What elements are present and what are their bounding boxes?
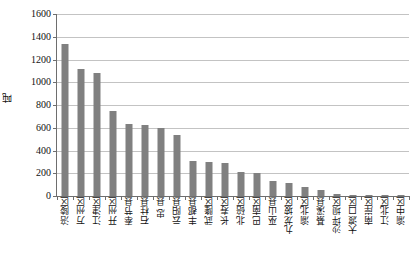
bar-slot <box>137 14 153 196</box>
bar <box>110 111 117 196</box>
x-axis-tick-label-text: 云阳县 <box>172 197 181 225</box>
bar-slot <box>377 14 393 196</box>
bar <box>126 124 133 196</box>
bar <box>334 194 341 196</box>
x-axis-tick-label-text: 忠 县 <box>156 197 165 218</box>
bar-slot <box>313 14 329 196</box>
x-axis-tick-label-text: 北碚区 <box>236 197 245 225</box>
bar-slot <box>361 14 377 196</box>
bar-slot <box>57 14 73 196</box>
bar-slot <box>233 14 249 196</box>
bar <box>270 181 277 196</box>
bar-slot <box>281 14 297 196</box>
x-axis-tick-label-text: 渝北区 <box>300 197 309 225</box>
y-axis-title: 吨 <box>1 0 15 196</box>
x-axis-tick-label: 长寿区 <box>216 197 232 253</box>
y-axis-title-text: 吨 <box>3 93 13 103</box>
x-axis-tick-label: 江北区 <box>376 197 392 253</box>
bar-slot <box>265 14 281 196</box>
x-axis-tick-label: 巫山县 <box>264 197 280 253</box>
x-axis-tick-label: 渝北区 <box>296 197 312 253</box>
bars-layer <box>57 14 409 196</box>
x-axis-tick-label: 沙坪坝区 <box>328 197 344 253</box>
x-axis-tick-label-text: 大渡口区 <box>348 197 357 234</box>
x-axis-tick-label-text: 沙坪坝区 <box>332 197 341 234</box>
bar-slot <box>329 14 345 196</box>
y-axis-tick-label: 1400 <box>31 32 51 42</box>
x-axis-tick-label-text: 巴南区 <box>252 197 261 225</box>
x-axis-tick-label: 江津区 <box>88 197 104 253</box>
bar-slot <box>345 14 361 196</box>
x-axis-tick-label-text: 石柱县 <box>140 197 149 225</box>
bar-slot <box>249 14 265 196</box>
x-axis-tick-label: 渝中区 <box>392 197 408 253</box>
bar-slot <box>73 14 89 196</box>
x-axis-tick-label: 巴南区 <box>248 197 264 253</box>
x-axis-tick-label-text: 江北区 <box>380 197 389 225</box>
y-axis-tick-labels: 16001400120010008006004002000 <box>14 14 54 196</box>
bar <box>382 195 389 196</box>
x-axis-tick-label-text: 涪陵区 <box>60 197 69 225</box>
bar-slot <box>217 14 233 196</box>
x-axis-tick-label-text: 奉节县 <box>124 197 133 225</box>
y-axis-tick-label: 800 <box>36 100 51 110</box>
y-axis-tick-label: 1600 <box>31 9 51 19</box>
x-axis-tick-label-text: 开州区 <box>108 197 117 225</box>
x-axis-tickmark <box>409 196 410 200</box>
bar <box>302 187 309 196</box>
bar-slot <box>105 14 121 196</box>
y-axis-tick-label: 400 <box>36 146 51 156</box>
bar <box>238 172 245 196</box>
x-axis-tick-label-text: 江津区 <box>92 197 101 225</box>
bar <box>286 183 293 196</box>
y-axis-tick-label: 1200 <box>31 55 51 65</box>
x-axis-tick-label-text: 万州区 <box>76 197 85 225</box>
x-axis-tick-label: 北碚区 <box>232 197 248 253</box>
x-axis-tick-label-text: 巫山县 <box>268 197 277 225</box>
x-axis-tick-label: 忠 县 <box>152 197 168 253</box>
x-axis-tick-label-text: 渝中区 <box>396 197 405 225</box>
bar-slot <box>297 14 313 196</box>
x-axis-tick-label: 大渡口区 <box>344 197 360 253</box>
bar-chart: 吨 16001400120010008006004002000 涪陵区万州区江津… <box>0 0 414 253</box>
bar-slot <box>169 14 185 196</box>
bar-slot <box>153 14 169 196</box>
x-axis-tick-label: 南岸区 <box>360 197 376 253</box>
bar <box>94 73 101 196</box>
x-axis-tick-label-text: 武隆区 <box>204 197 213 225</box>
x-axis-tick-label: 奉节县 <box>120 197 136 253</box>
x-axis-tick-label: 云阳县 <box>168 197 184 253</box>
y-axis-tick-label: 0 <box>46 191 51 201</box>
bar <box>62 44 69 196</box>
x-axis-tick-label-text: 九龙坡区 <box>284 197 293 234</box>
bar <box>222 163 229 196</box>
bar <box>206 162 213 196</box>
bar-slot <box>185 14 201 196</box>
bar-slot <box>201 14 217 196</box>
bar-slot <box>89 14 105 196</box>
x-axis-tick-label: 綦溪县 <box>312 197 328 253</box>
x-axis-tick-label: 武隆区 <box>200 197 216 253</box>
x-axis-tick-label: 涪陵区 <box>56 197 72 253</box>
y-axis-tick-label: 200 <box>36 168 51 178</box>
x-axis-tick-label-text: 丰都县 <box>188 197 197 225</box>
x-axis-tick-label: 石柱县 <box>136 197 152 253</box>
bar <box>318 190 325 196</box>
x-axis-tick-label-text: 綦溪县 <box>316 197 325 225</box>
bar <box>174 135 181 196</box>
bar <box>78 69 85 196</box>
x-axis-tick-label: 万州区 <box>72 197 88 253</box>
x-axis-tick-label: 丰都县 <box>184 197 200 253</box>
bar-slot <box>121 14 137 196</box>
x-axis-tick-label: 九龙坡区 <box>280 197 296 253</box>
bar <box>158 128 165 196</box>
x-axis-tick-label: 开州区 <box>104 197 120 253</box>
x-axis-tick-label-text: 南岸区 <box>364 197 373 225</box>
x-axis-tick-labels: 涪陵区万州区江津区开州区奉节县石柱县忠 县云阳县丰都县武隆区长寿区北碚区巴南区巫… <box>56 197 408 253</box>
bar <box>254 173 261 196</box>
y-axis-tick-label: 600 <box>36 123 51 133</box>
y-axis-tick-label: 1000 <box>31 77 51 87</box>
x-axis-tick-label-text: 长寿区 <box>220 197 229 225</box>
bar <box>190 161 197 196</box>
plot-area <box>56 14 409 196</box>
